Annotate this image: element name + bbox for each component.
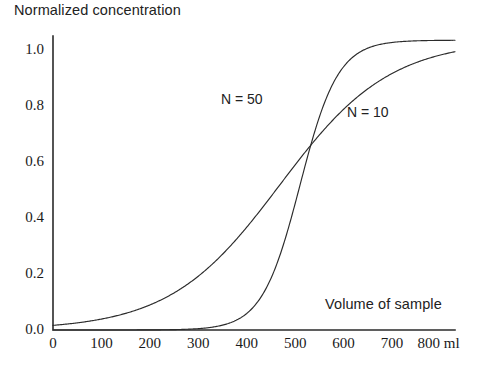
- data-curves: [53, 40, 455, 330]
- x-tick-label: 200: [127, 335, 173, 352]
- x-tick-label: 700: [369, 335, 415, 352]
- y-tick-label: 1.0: [10, 41, 44, 58]
- x-tick-label: 500: [272, 335, 318, 352]
- series-label-n-10: N = 10: [347, 104, 389, 120]
- y-axis-title: Normalized concentration: [14, 2, 181, 18]
- x-axis-title: Volume of sample: [325, 296, 442, 312]
- y-tick-label: 0.2: [10, 265, 44, 282]
- x-tick-label: 600: [321, 335, 367, 352]
- x-tick-label: 800 ml: [417, 335, 487, 352]
- series-label-n-50: N = 50: [221, 91, 263, 107]
- x-tick-label: 0: [30, 335, 76, 352]
- x-tick-label: 400: [224, 335, 270, 352]
- curve-n-50: [53, 40, 455, 330]
- chart-figure: Normalized concentration Volume of sampl…: [0, 0, 488, 369]
- plot-area: [0, 0, 488, 369]
- y-tick-label: 0.8: [10, 97, 44, 114]
- y-tick-label: 0.4: [10, 209, 44, 226]
- x-tick-label: 300: [175, 335, 221, 352]
- y-tick-label: 0.6: [10, 153, 44, 170]
- axis-lines: [53, 36, 455, 330]
- x-tick-label: 100: [78, 335, 124, 352]
